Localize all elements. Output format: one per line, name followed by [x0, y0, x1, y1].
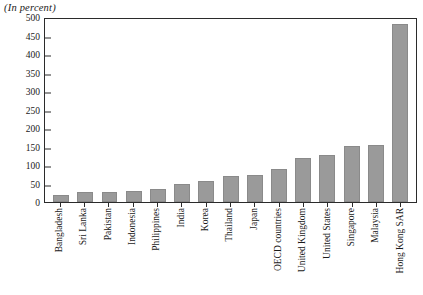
x-tick-slot	[389, 203, 413, 207]
x-label-slot: Japan	[243, 208, 267, 286]
y-tick-mark	[45, 148, 51, 149]
x-axis-ticks	[44, 203, 417, 207]
bar	[53, 195, 69, 202]
bar	[174, 184, 190, 202]
x-tick-label: OECD countries	[274, 208, 284, 271]
x-tick-mark	[84, 203, 85, 207]
x-tick-label: Pakistan	[104, 208, 114, 240]
bar-slot	[364, 19, 388, 202]
y-tick-mark	[45, 111, 51, 112]
y-tick-label: 350	[26, 69, 40, 79]
x-tick-slot	[267, 203, 291, 207]
bar-slot	[388, 19, 412, 202]
y-tick-mark	[45, 130, 51, 131]
x-label-slot: Malaysia	[364, 208, 388, 286]
x-tick-slot	[48, 203, 72, 207]
x-label-slot: Hong Kong SAR	[389, 208, 413, 286]
x-tick-slot	[170, 203, 194, 207]
x-tick-mark	[400, 203, 401, 207]
y-tick-label: 450	[26, 32, 40, 42]
x-label-slot: Singapore	[340, 208, 364, 286]
bar	[223, 176, 239, 202]
chart-subtitle: (In percent)	[4, 2, 56, 13]
bar-slot	[315, 19, 339, 202]
bar-slot	[146, 19, 170, 202]
x-tick-mark	[108, 203, 109, 207]
y-tick-mark	[45, 93, 51, 94]
x-tick-slot	[194, 203, 218, 207]
y-tick-label: 100	[26, 161, 40, 171]
x-tick-mark	[230, 203, 231, 207]
y-axis-labels: 050100150200250300350400450500	[0, 18, 40, 203]
y-tick-label: 250	[26, 106, 40, 116]
y-tick-mark	[45, 37, 51, 38]
bar	[368, 145, 384, 202]
bar	[344, 146, 360, 202]
x-tick-label: Sri Lanka	[80, 208, 90, 245]
x-tick-mark	[181, 203, 182, 207]
x-tick-label: Philippines	[153, 208, 163, 251]
x-axis-labels: BangladeshSri LankaPakistanIndonesiaPhil…	[44, 208, 417, 286]
x-tick-label: Malaysia	[372, 208, 382, 243]
bar-slot	[170, 19, 194, 202]
x-tick-slot	[218, 203, 242, 207]
bar	[295, 158, 311, 202]
bar-slot	[73, 19, 97, 202]
x-tick-mark	[279, 203, 280, 207]
x-tick-slot	[121, 203, 145, 207]
x-label-slot: India	[170, 208, 194, 286]
x-tick-slot	[340, 203, 364, 207]
x-tick-label: Hong Kong SAR	[396, 208, 406, 273]
x-tick-slot	[364, 203, 388, 207]
bar	[247, 175, 263, 202]
x-label-slot: Bangladesh	[48, 208, 72, 286]
x-tick-slot	[291, 203, 315, 207]
bar-series	[45, 19, 416, 202]
x-label-slot: United Kingdom	[291, 208, 315, 286]
y-tick-label: 0	[35, 198, 40, 208]
y-tick-label: 400	[26, 50, 40, 60]
bar	[126, 191, 142, 202]
x-tick-label: Singapore	[347, 208, 357, 247]
y-tick-label: 150	[26, 143, 40, 153]
bar	[271, 169, 287, 202]
bar	[102, 192, 118, 202]
x-tick-mark	[376, 203, 377, 207]
bar-slot	[218, 19, 242, 202]
x-tick-label: Korea	[201, 208, 211, 231]
x-label-slot: Indonesia	[121, 208, 145, 286]
x-tick-label: India	[177, 208, 187, 228]
plot-area	[44, 18, 417, 203]
y-tick-mark	[45, 74, 51, 75]
x-tick-mark	[133, 203, 134, 207]
bar-slot	[243, 19, 267, 202]
y-tick-label: 500	[26, 13, 40, 23]
bar-slot	[339, 19, 363, 202]
bar	[392, 24, 408, 202]
x-label-slot: Philippines	[145, 208, 169, 286]
x-tick-label: Japan	[250, 208, 260, 230]
y-tick-label: 200	[26, 124, 40, 134]
x-tick-mark	[254, 203, 255, 207]
x-tick-mark	[60, 203, 61, 207]
bar-slot	[97, 19, 121, 202]
x-tick-mark	[303, 203, 304, 207]
x-label-slot: United States	[316, 208, 340, 286]
x-tick-mark	[206, 203, 207, 207]
x-label-slot: OECD countries	[267, 208, 291, 286]
x-tick-mark	[352, 203, 353, 207]
bar	[77, 192, 93, 202]
bar-slot	[49, 19, 73, 202]
bar-slot	[291, 19, 315, 202]
x-tick-label: United States	[323, 208, 333, 259]
x-tick-label: Indonesia	[128, 208, 138, 245]
y-tick-mark	[45, 185, 51, 186]
bar	[319, 155, 335, 202]
y-tick-mark	[45, 167, 51, 168]
y-tick-mark	[45, 56, 51, 57]
x-label-slot: Sri Lanka	[72, 208, 96, 286]
x-tick-label: United Kingdom	[299, 208, 309, 272]
x-tick-label: Bangladesh	[55, 208, 65, 252]
y-tick-label: 300	[26, 87, 40, 97]
x-tick-slot	[145, 203, 169, 207]
